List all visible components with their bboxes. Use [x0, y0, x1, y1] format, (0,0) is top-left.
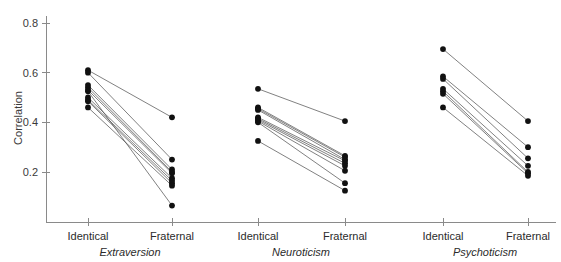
datapoint-neuroticism-identical-study-1 [255, 86, 261, 92]
connector-psychoticism-study-6 [443, 94, 528, 173]
datapoint-extraversion-fraternal-study-2 [169, 157, 175, 163]
connector-psychoticism-study-1 [443, 49, 528, 121]
x-tick-label-extraversion-identical: Identical [68, 230, 109, 242]
datapoint-extraversion-fraternal-study-1 [169, 114, 175, 120]
x-tick-label-psychoticism-identical: Identical [423, 230, 464, 242]
connector-extraversion-study-3 [88, 85, 172, 169]
connector-psychoticism-study-5 [443, 91, 528, 172]
connector-neuroticism-study-6 [258, 119, 345, 164]
connector-extraversion-study-10 [88, 91, 172, 205]
connector-neuroticism-study-4 [258, 110, 345, 160]
connector-extraversion-study-8 [88, 101, 172, 183]
datapoint-extraversion-identical-study-2 [85, 70, 91, 76]
twin-correlation-chart: 0.20.40.60.8IdenticalFraternalExtraversi… [0, 0, 561, 262]
connector-extraversion-study-5 [88, 90, 172, 173]
datapoint-extraversion-fraternal-study-10 [169, 203, 175, 209]
x-tick-label-psychoticism-fraternal: Fraternal [506, 230, 550, 242]
datapoint-neuroticism-fraternal-study-7 [342, 163, 348, 169]
datapoint-neuroticism-fraternal-study-10 [342, 188, 348, 194]
connector-psychoticism-study-3 [443, 79, 528, 158]
datapoint-psychoticism-fraternal-study-2 [525, 144, 531, 150]
datapoint-extraversion-fraternal-study-5 [169, 170, 175, 176]
datapoint-neuroticism-identical-study-4 [255, 107, 261, 113]
series-layer [85, 46, 531, 208]
y-tick-label-0.6: 0.6 [23, 67, 38, 79]
connector-neuroticism-study-8 [258, 121, 345, 171]
x-tick-label-extraversion-fraternal: Fraternal [150, 230, 194, 242]
panel-label-psychoticism: Psychoticism [453, 246, 517, 258]
x-tick-label-neuroticism-identical: Identical [238, 230, 279, 242]
datapoint-psychoticism-fraternal-study-3 [525, 155, 531, 161]
connector-psychoticism-study-4 [443, 89, 528, 166]
y-tick-label-0.2: 0.2 [23, 166, 38, 178]
datapoint-psychoticism-identical-study-3 [440, 76, 446, 82]
connector-psychoticism-study-7 [443, 107, 528, 175]
connector-extraversion-study-1 [88, 70, 172, 117]
datapoint-psychoticism-fraternal-study-4 [525, 163, 531, 169]
datapoint-psychoticism-fraternal-study-1 [525, 118, 531, 124]
datapoint-psychoticism-identical-study-6 [440, 91, 446, 97]
datapoint-neuroticism-identical-study-10 [255, 138, 261, 144]
connector-neuroticism-study-5 [258, 117, 345, 160]
x-tick-label-neuroticism-fraternal: Fraternal [323, 230, 367, 242]
datapoint-neuroticism-fraternal-study-9 [342, 180, 348, 186]
datapoint-neuroticism-fraternal-study-1 [342, 118, 348, 124]
connector-psychoticism-study-2 [443, 76, 528, 147]
connector-neuroticism-study-7 [258, 120, 345, 166]
chart-container: 0.20.40.60.8IdenticalFraternalExtraversi… [0, 0, 561, 262]
datapoint-psychoticism-identical-study-7 [440, 105, 446, 111]
y-tick-label-0.4: 0.4 [23, 116, 38, 128]
datapoint-neuroticism-fraternal-study-8 [342, 168, 348, 174]
connector-extraversion-study-7 [88, 100, 172, 181]
datapoint-psychoticism-fraternal-study-7 [525, 173, 531, 179]
connector-extraversion-study-6 [88, 98, 172, 179]
y-axis-title: Correlation [12, 91, 24, 145]
datapoint-extraversion-fraternal-study-9 [169, 183, 175, 189]
panel-label-extraversion: Extraversion [99, 246, 160, 258]
datapoint-extraversion-identical-study-10 [85, 88, 91, 94]
connector-extraversion-study-4 [88, 88, 172, 172]
panel-label-neuroticism: Neuroticism [272, 246, 330, 258]
y-tick-label-0.8: 0.8 [23, 17, 38, 29]
datapoint-psychoticism-identical-study-1 [440, 46, 446, 52]
datapoint-extraversion-identical-study-9 [85, 105, 91, 111]
datapoint-neuroticism-identical-study-9 [255, 119, 261, 125]
datapoint-extraversion-identical-study-8 [85, 98, 91, 104]
